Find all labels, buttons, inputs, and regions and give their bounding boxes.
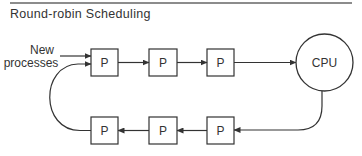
new-label-line1: New: [30, 43, 54, 57]
process-label: P: [216, 56, 224, 70]
cpu-node: CPU: [296, 34, 353, 91]
process-label: P: [100, 56, 108, 70]
top-process-1: P: [91, 49, 118, 76]
process-label: P: [159, 56, 167, 70]
process-label: P: [159, 124, 167, 138]
new-label-line2: processes: [4, 56, 59, 70]
cpu-label: CPU: [312, 56, 337, 70]
process-label: P: [216, 124, 224, 138]
round-robin-diagram: New processes P P P CPU P P P: [0, 0, 362, 156]
bottom-process-3: P: [207, 117, 234, 144]
top-process-2: P: [149, 49, 177, 76]
arrow-loop-back: [50, 64, 91, 131]
arrow-cpu-return: [234, 91, 322, 130]
top-process-3: P: [207, 49, 234, 76]
bottom-process-1: P: [91, 117, 118, 144]
bottom-process-2: P: [149, 117, 177, 144]
process-label: P: [100, 124, 108, 138]
